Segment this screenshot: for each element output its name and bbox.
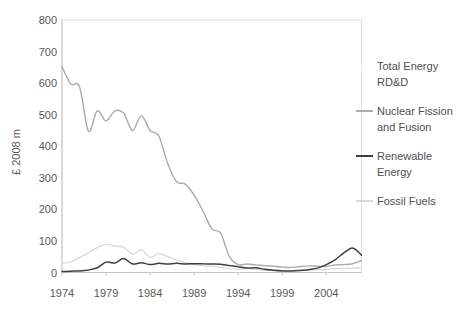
x-tick-label: 1989 (182, 287, 206, 299)
x-tick-label: 1974 (50, 287, 74, 299)
y-tick-label: 200 (39, 203, 57, 215)
chart-figure: 0100200300400500600700800197419791984198… (0, 0, 472, 319)
x-tick-label: 1994 (226, 287, 250, 299)
x-tick-label: 1999 (270, 287, 294, 299)
legend-swatch-fossil-fuels (356, 200, 373, 202)
legend-label-renewable-energy: RenewableEnergy (377, 148, 432, 180)
legend-entry-renewable-energy: RenewableEnergy (356, 148, 470, 180)
x-tick-label: 1979 (94, 287, 118, 299)
y-axis-title: £ 2008 m (10, 129, 22, 175)
legend-label-nuclear-fission-and-fusion: Nuclear Fissionand Fusion (377, 103, 453, 135)
legend-label-line: Fossil Fuels (377, 193, 436, 209)
legend-label-line: Renewable (377, 148, 432, 164)
y-tick-label: 0 (51, 267, 57, 279)
legend-label-line: Total Energy (377, 58, 438, 74)
legend-entry-total-energy-rd-d: Total EnergyRD&D (356, 58, 470, 90)
legend-label-line: and Fusion (377, 119, 453, 135)
chart-legend: Total EnergyRD&DNuclear Fissionand Fusio… (356, 58, 470, 222)
legend-label-line: Energy (377, 164, 432, 180)
legend-swatch-total-energy-rd-d (356, 65, 373, 67)
legend-entry-fossil-fuels: Fossil Fuels (356, 193, 470, 209)
y-tick-label: 700 (39, 46, 57, 58)
legend-swatch-nuclear-fission-and-fusion (356, 110, 373, 112)
legend-label-fossil-fuels: Fossil Fuels (377, 193, 436, 209)
legend-swatch-renewable-energy (356, 155, 373, 157)
y-tick-label: 400 (39, 140, 57, 152)
plot-border (62, 20, 362, 273)
y-tick-label: 300 (39, 172, 57, 184)
x-tick-label: 2004 (314, 287, 338, 299)
legend-entry-nuclear-fission-and-fusion: Nuclear Fissionand Fusion (356, 103, 470, 135)
legend-label-line: RD&D (377, 74, 438, 90)
y-tick-label: 600 (39, 77, 57, 89)
series-line-renewable-energy (62, 248, 362, 272)
legend-label-total-energy-rd-d: Total EnergyRD&D (377, 58, 438, 90)
y-tick-label: 500 (39, 109, 57, 121)
series-line-nuclear-fission-and-fusion (62, 67, 362, 268)
legend-label-line: Nuclear Fission (377, 103, 453, 119)
x-tick-label: 1984 (138, 287, 162, 299)
y-tick-label: 800 (39, 14, 57, 26)
y-tick-label: 100 (39, 235, 57, 247)
